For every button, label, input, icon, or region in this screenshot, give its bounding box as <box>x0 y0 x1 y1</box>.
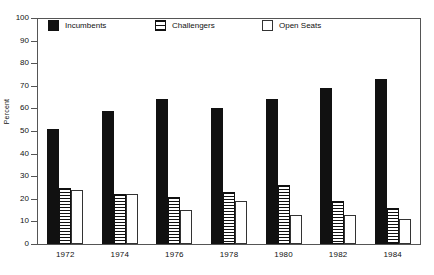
bar-incumbents-1978 <box>211 108 223 244</box>
y-axis-label: 20 <box>3 195 29 203</box>
solid-black-swatch <box>48 20 59 31</box>
y-axis-label-wrap: 70 <box>0 82 29 90</box>
y-axis-label-wrap: 60 <box>0 104 29 112</box>
legend-label: Open Seats <box>279 21 321 30</box>
bars-container <box>38 19 420 244</box>
legend-item-open-seats[interactable]: Open Seats <box>262 20 321 31</box>
y-axis-label-wrap: 20 <box>0 195 29 203</box>
y-axis-label-wrap: 30 <box>0 172 29 180</box>
y-axis-label-wrap: 80 <box>0 59 29 67</box>
bar-incumbents-1974 <box>102 111 114 244</box>
y-axis-label-wrap: 40 <box>0 150 29 158</box>
y-axis-label: 0 <box>3 240 29 248</box>
bar-challengers-1974 <box>114 194 126 244</box>
bar-challengers-1976 <box>168 197 180 244</box>
y-axis-label: 10 <box>3 217 29 225</box>
legend-label: Incumbents <box>65 21 106 30</box>
bar-group <box>266 19 302 244</box>
y-axis-label: 60 <box>3 104 29 112</box>
y-axis-label: 80 <box>3 59 29 67</box>
x-axis-label-1974: 1974 <box>95 250 145 259</box>
bar-challengers-1978 <box>223 192 235 244</box>
x-axis-label-1978: 1978 <box>204 250 254 259</box>
bar-incumbents-1982 <box>320 88 332 244</box>
bar-challengers-1972 <box>59 188 71 245</box>
x-axis-label-1984: 1984 <box>368 250 418 259</box>
x-axis-label-1976: 1976 <box>149 250 199 259</box>
bar-open-seats-1974 <box>126 194 138 244</box>
bar-open-seats-1982 <box>344 215 356 244</box>
bar-group <box>320 19 356 244</box>
y-axis-label: 90 <box>3 37 29 45</box>
y-axis-label-wrap: 10 <box>0 217 29 225</box>
x-axis-label-1982: 1982 <box>313 250 363 259</box>
bar-challengers-1984 <box>387 208 399 244</box>
bar-incumbents-1972 <box>47 129 59 244</box>
bar-challengers-1982 <box>332 201 344 244</box>
legend-label: Challengers <box>172 21 215 30</box>
x-axis-label-1972: 1972 <box>40 250 90 259</box>
y-axis-label-wrap: 90 <box>0 37 29 45</box>
bar-incumbents-1980 <box>266 99 278 244</box>
bar-incumbents-1984 <box>375 79 387 244</box>
y-axis-label-wrap: 0 <box>0 240 29 248</box>
bar-group <box>156 19 192 244</box>
bar-open-seats-1972 <box>71 190 83 244</box>
bar-group <box>47 19 83 244</box>
y-axis-label: 70 <box>3 82 29 90</box>
y-axis-label: 30 <box>3 172 29 180</box>
bar-incumbents-1976 <box>156 99 168 244</box>
horizontal-stripe-swatch <box>155 20 166 31</box>
bar-group <box>375 19 411 244</box>
y-axis-label: 50 <box>3 127 29 135</box>
legend-item-incumbents[interactable]: Incumbents <box>48 20 106 31</box>
y-axis-label-wrap: 100 <box>0 14 29 22</box>
bar-open-seats-1980 <box>290 215 302 244</box>
x-axis-label-1980: 1980 <box>259 250 309 259</box>
bar-group <box>211 19 247 244</box>
bar-open-seats-1978 <box>235 201 247 244</box>
legend-item-challengers[interactable]: Challengers <box>155 20 215 31</box>
bar-group <box>102 19 138 244</box>
y-axis-label: 40 <box>3 150 29 158</box>
bar-open-seats-1984 <box>399 219 411 244</box>
bar-challengers-1980 <box>278 185 290 244</box>
bar-chart: Percent 1009080706050403020100 197219741… <box>0 0 434 275</box>
bar-open-seats-1976 <box>180 210 192 244</box>
empty-outline-swatch <box>262 20 273 31</box>
y-axis-label-wrap: 50 <box>0 127 29 135</box>
y-axis-label: 100 <box>3 14 29 22</box>
